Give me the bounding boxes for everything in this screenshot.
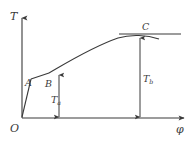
y-axis-label: T — [10, 10, 19, 23]
measure-label-tb: Tb — [143, 73, 153, 85]
measure-label-ta: Ta — [51, 94, 61, 106]
measure-label-tb-sub: b — [149, 78, 153, 85]
point-label-c: C — [142, 21, 150, 32]
x-axis-label: φ — [176, 123, 184, 136]
curve-segment-main — [49, 35, 159, 73]
thermal-curve-figure: T φ O A B C Ta Tb — [0, 0, 196, 144]
origin-label: O — [10, 122, 19, 135]
measure-label-ta-sub: a — [57, 99, 61, 106]
diagram-canvas: T φ O A B C Ta Tb — [0, 0, 196, 144]
point-label-b: B — [44, 78, 52, 89]
point-label-a: A — [24, 77, 32, 88]
